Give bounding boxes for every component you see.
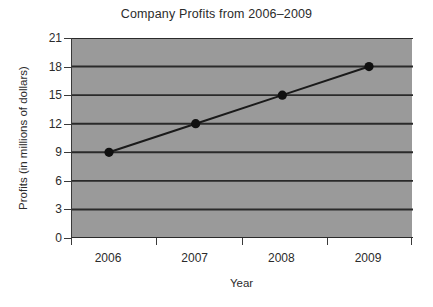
y-axis-tick-marks [64,0,71,307]
data-point-marker: 2009: 18 [364,62,373,71]
x-axis-tick-mark [411,238,412,245]
y-axis-tick-label: 0 [34,232,62,244]
y-axis-tick-label: 3 [34,203,62,215]
x-axis-tick-mark [71,238,72,245]
y-axis-tick-mark [64,124,71,125]
data-point-marker: 2007: 12 [191,119,200,128]
y-axis-tick-label: 9 [34,146,62,158]
x-axis-tick-mark [242,238,243,245]
x-axis-tick-mark [156,238,157,245]
y-axis-tick-mark [64,209,71,210]
x-axis-tick-label: 2009 [338,251,398,265]
y-axis-tick-mark [64,152,71,153]
plot-area: 2006: 92007: 122008: 152009: 18 [71,38,412,238]
y-axis-tick-label: 18 [34,61,62,73]
x-axis-tick-mark [327,238,328,245]
y-axis-title-container: Profits (in millions of dollars) [14,38,32,238]
x-axis-title: Year [71,277,412,289]
x-axis-tick-label: 2008 [251,251,311,265]
series-line [109,67,369,153]
y-axis-tick-mark [64,67,71,68]
y-axis-tick-mark [64,181,71,182]
x-axis-tick-label: 2006 [78,251,138,265]
x-axis-tick-label: 2007 [165,251,225,265]
data-point-marker: 2008: 15 [278,91,287,100]
plot-canvas: 2006: 92007: 122008: 152009: 18 [72,38,413,238]
y-axis-tick-mark [64,238,71,239]
data-point-marker: 2006: 9 [104,148,113,157]
y-axis-tick-label: 15 [34,89,62,101]
y-axis-tick-label: 6 [34,175,62,187]
chart-figure: Company Profits from 2006–2009 Profits (… [0,0,433,307]
y-axis-tick-label: 12 [34,118,62,130]
y-axis-tick-label: 21 [34,32,62,44]
x-axis-tick-labels: 2006200720082009 [71,251,412,269]
y-axis-tick-mark [64,95,71,96]
y-axis-tick-mark [64,38,71,39]
x-axis-tick-marks [71,238,412,246]
data-series-profits: 2006: 92007: 122008: 152009: 18 [104,62,373,157]
y-axis-tick-labels: 036912151821 [34,0,62,307]
y-axis-title: Profits (in millions of dollars) [17,66,29,210]
